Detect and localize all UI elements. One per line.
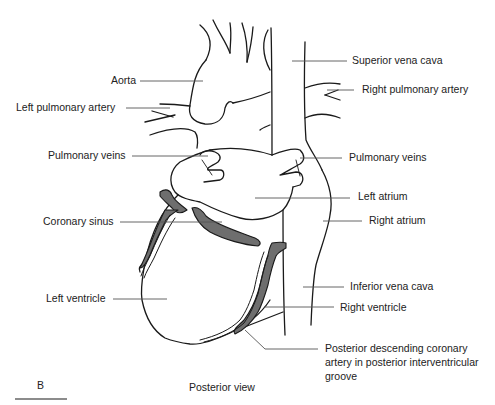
- label-right-ventricle: Right ventricle: [340, 301, 407, 314]
- label-right-pulmonary-artery: Right pulmonary artery: [362, 83, 468, 96]
- left-atrium-right-lobe: [272, 149, 304, 187]
- label-left-atrium: Left atrium: [358, 190, 408, 203]
- posterior-descending-artery: [234, 242, 286, 334]
- left-pulmonary-artery-outline: [160, 104, 190, 106]
- figure-caption: Posterior view: [189, 381, 255, 393]
- coronary-sinus-left: [160, 190, 187, 213]
- label-aorta: Aorta: [111, 74, 136, 87]
- left-atrium-outline: [171, 150, 293, 220]
- label-left-ventricle: Left ventricle: [46, 292, 106, 305]
- label-pulmonary-veins-right: Pulmonary veins: [349, 151, 427, 164]
- label-pulmonary-veins-left: Pulmonary veins: [48, 149, 126, 162]
- right-atrium-outline: [311, 170, 331, 325]
- label-right-atrium: Right atrium: [369, 214, 426, 227]
- panel-letter: B: [37, 379, 44, 391]
- aorta-outline: [190, 60, 233, 124]
- label-superior-vena-cava: Superior vena cava: [352, 54, 442, 67]
- right-pulmonary-artery-outline: [305, 83, 340, 88]
- leader-lines: [113, 61, 362, 349]
- label-posterior-descending-coronary-artery: Posterior descending coronary artery in …: [325, 341, 490, 383]
- aorta-branch-2: [213, 20, 230, 53]
- heart-posterior-view-diagram: Aorta Left pulmonary artery Pulmonary ve…: [0, 0, 495, 405]
- aorta-branch-3: [242, 23, 247, 62]
- aorta-branch-1: [200, 25, 210, 60]
- label-coronary-sinus: Coronary sinus: [43, 215, 114, 228]
- label-inferior-vena-cava: Inferior vena cava: [350, 280, 433, 293]
- great-cardiac-vein: [140, 210, 178, 268]
- left-pulmonary-vein-lobe: [200, 151, 224, 182]
- label-left-pulmonary-artery: Left pulmonary artery: [16, 101, 115, 114]
- leader-posterior-descending-coronary-artery: [245, 330, 318, 349]
- ivc-left-edge: [283, 210, 285, 335]
- svc-left-edge: [271, 28, 272, 155]
